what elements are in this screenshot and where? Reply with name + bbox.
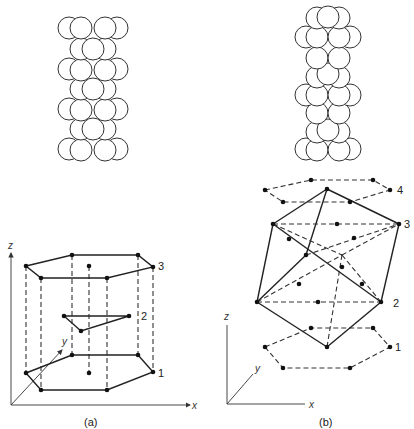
layer-label-1: 1: [158, 367, 164, 379]
y-axis-label: y: [61, 336, 68, 347]
y-axis-label: y: [254, 363, 261, 374]
layer-label-1: 1: [395, 341, 401, 353]
layer-label-3: 3: [404, 218, 410, 230]
layer-label-2: 2: [393, 297, 399, 309]
y-axis: [227, 374, 253, 404]
caption-b: (b): [319, 416, 332, 428]
hcp-unit-cell: z x y 3 2 1 (a): [7, 240, 198, 428]
y-axis: [11, 350, 62, 405]
x-axis-label: x: [308, 399, 315, 410]
crystal-structure-figure: z x y 3 2 1 (a) z x y: [0, 0, 414, 429]
layer-label-2: 2: [141, 310, 147, 322]
fcc-unit-cell: z x y: [223, 178, 410, 428]
fcc-sphere-stack: [295, 6, 361, 161]
layer-label-4: 4: [397, 184, 403, 196]
caption-a: (a): [84, 416, 97, 428]
layer-label-3: 3: [158, 260, 164, 272]
hcp-sphere-stack: [58, 17, 128, 161]
z-axis-label: z: [7, 240, 13, 251]
x-axis-label: x: [191, 400, 198, 411]
z-axis-label: z: [223, 311, 229, 322]
